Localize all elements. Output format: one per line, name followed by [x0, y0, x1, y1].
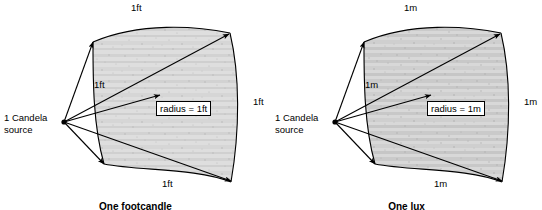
illuminance-figure: 1 Candela source 1ft 1ft 1ft 1ft radius …: [0, 0, 542, 210]
edge-label-top-lux: 1m: [404, 2, 417, 13]
edge-label-right-lux: 1m: [524, 96, 537, 107]
caption-lux: One lux: [271, 201, 542, 210]
caption-footcandle: One footcandle: [0, 201, 271, 210]
edge-label-right-footcandle: 1ft: [253, 96, 264, 107]
edge-label-inner-left-footcandle: 1ft: [94, 79, 105, 90]
panel-lux: 1 Candela source 1m 1m 1m 1m radius = 1m…: [271, 0, 542, 210]
lux-diagram-graphic: [271, 0, 542, 210]
radius-callout-lux: radius = 1m: [427, 101, 485, 116]
source-label-footcandle: 1 Candela source: [4, 112, 47, 135]
edge-label-inner-left-lux: 1m: [365, 79, 378, 90]
footcandle-diagram-graphic: [0, 0, 271, 210]
edge-label-bottom-lux: 1m: [434, 178, 447, 189]
radius-callout-footcandle: radius = 1ft: [156, 101, 211, 116]
source-label-lux: 1 Candela source: [275, 112, 318, 135]
edge-label-bottom-footcandle: 1ft: [162, 178, 173, 189]
panel-footcandle: 1 Candela source 1ft 1ft 1ft 1ft radius …: [0, 0, 271, 210]
edge-label-top-footcandle: 1ft: [131, 2, 142, 13]
